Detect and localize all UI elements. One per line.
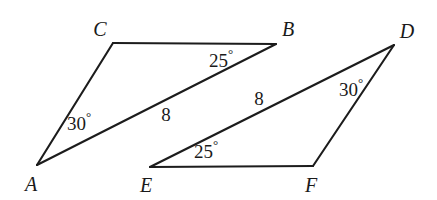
angle-label-b: 25°: [209, 48, 233, 69]
vertex-label-a: A: [25, 174, 37, 194]
vertex-label-e: E: [140, 175, 152, 195]
angle-label-a: 30°: [67, 111, 91, 132]
angle-e-value: 25: [194, 141, 213, 162]
vertex-label-b: B: [282, 19, 294, 39]
angle-d-value: 30: [339, 79, 358, 100]
segment-ab: [37, 44, 276, 165]
segment-cb: [113, 43, 276, 44]
segment-ed: [150, 45, 394, 167]
degree-sign-icon-b: °: [228, 46, 233, 61]
triangle-abc: [37, 43, 276, 165]
vertex-label-f: F: [305, 175, 317, 195]
angle-a-value: 30: [67, 113, 86, 134]
vertex-label-c: C: [93, 19, 106, 39]
angle-label-d: 30°: [339, 77, 363, 98]
angle-b-value: 25: [209, 50, 228, 71]
angle-label-e: 25°: [194, 139, 218, 160]
side-length-label-ed: 8: [254, 89, 264, 108]
vertex-label-d: D: [400, 21, 414, 41]
segment-ef: [150, 166, 313, 167]
triangle-def: [150, 45, 394, 167]
geometry-figure: A B C D E F 30° 25° 25° 30° 8 8: [0, 0, 437, 200]
side-length-label-ab: 8: [161, 105, 171, 124]
degree-sign-icon-e: °: [213, 137, 218, 152]
triangles-svg: [0, 0, 437, 200]
segment-fd: [313, 45, 394, 166]
degree-sign-icon-d: °: [358, 75, 363, 90]
degree-sign-icon-a: °: [86, 109, 91, 124]
